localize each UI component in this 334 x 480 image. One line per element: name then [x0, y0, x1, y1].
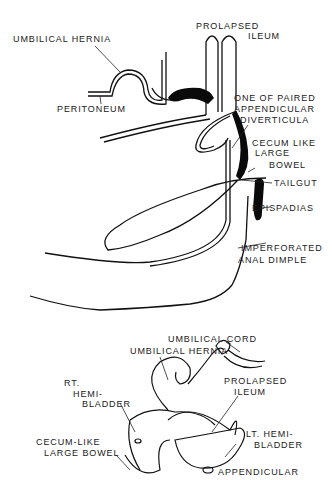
label-rt-hemi-bladder-3: BLADDER [82, 399, 131, 409]
label-prolapsed-ileum-bottom: PROLAPSED [224, 376, 287, 386]
label-prolapsed-ileum-2: ILEUM [248, 31, 280, 41]
sagittal-section-drawing [0, 0, 334, 480]
label-peritoneum: PERITONEUM [57, 104, 126, 114]
label-appendicular-diverticula: ONE OF PAIRED [234, 93, 316, 103]
label-rt-hemi-bladder: RT. [64, 378, 80, 388]
label-appendicular: APPENDICULAR [218, 467, 299, 477]
label-lt-hemi-bladder: LT. HEMI- [246, 429, 293, 439]
label-umbilical-hernia-bottom: UMBILICAL HERNIA [130, 346, 228, 356]
label-epispadias: EPISPADIAS [252, 203, 314, 213]
label-lt-hemi-bladder-2: BLADDER [254, 440, 303, 450]
label-tailgut: TAILGUT [274, 178, 318, 188]
label-cecum-like-large-bowel: CECUM-LIKE [36, 437, 101, 447]
label-imperforated-anal-dimple-2: ANAL DIMPLE [238, 255, 307, 265]
label-umbilical-cord: UMBILICAL CORD [168, 334, 257, 344]
label-cecum-like: CECUM LIKE [252, 138, 316, 148]
label-cecum-like-3: BOWEL [269, 160, 306, 170]
label-imperforated-anal-dimple: IMPERFORATED [241, 243, 323, 253]
label-prolapsed-ileum: PROLAPSED [196, 21, 259, 31]
label-prolapsed-ileum-bottom-2: ILEUM [234, 387, 266, 397]
label-cecum-like-large-bowel-2: LARGE BOWEL [44, 448, 119, 458]
label-cecum-like-2: LARGE [255, 148, 290, 158]
label-umbilical-hernia: UMBILICAL HERNIA [13, 34, 111, 44]
label-appendicular-diverticula-2: APPENDICULAR [234, 104, 315, 114]
label-rt-hemi-bladder-2: HEMI- [73, 389, 103, 399]
label-appendicular-diverticula-3: DIVERTICULA [240, 115, 309, 125]
